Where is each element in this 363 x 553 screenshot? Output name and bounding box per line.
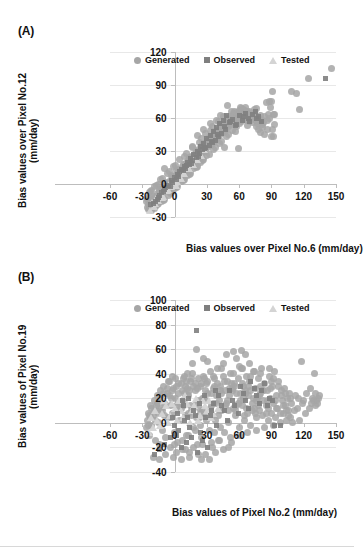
panel-b-y-axis-title-line2: (mm/day) bbox=[29, 294, 40, 479]
bottom-divider bbox=[0, 546, 354, 547]
x-tick-label: 0 bbox=[172, 430, 178, 441]
y-tick bbox=[171, 300, 175, 301]
legend-item-observed: Observed bbox=[204, 55, 256, 65]
y-tick-label: 60 bbox=[117, 344, 167, 355]
y-axis-line bbox=[175, 300, 176, 472]
x-tick-label: 30 bbox=[201, 191, 212, 202]
x-tick bbox=[271, 184, 272, 188]
x-tick bbox=[207, 423, 208, 427]
x-tick bbox=[175, 184, 176, 188]
triangle-marker-icon bbox=[269, 57, 277, 64]
legend-label-tested: Tested bbox=[281, 303, 309, 313]
square-marker-icon bbox=[204, 305, 210, 311]
x-tick bbox=[336, 423, 337, 427]
legend-item-observed: Observed bbox=[204, 303, 256, 313]
y-tick bbox=[171, 151, 175, 152]
panel-a-x-axis-title: Bias values over Pixel No.6 (mm/day) bbox=[186, 243, 363, 254]
x-tick bbox=[110, 184, 111, 188]
y-tick-label: 0 bbox=[117, 179, 167, 190]
y-tick-label: 80 bbox=[117, 319, 167, 330]
x-tick-label: 60 bbox=[234, 430, 245, 441]
y-tick bbox=[171, 374, 175, 375]
x-tick-label: -60 bbox=[103, 191, 117, 202]
x-tick-label: 60 bbox=[234, 191, 245, 202]
x-tick bbox=[271, 423, 272, 427]
x-tick-label: -30 bbox=[135, 191, 149, 202]
triangle-marker-icon bbox=[269, 305, 277, 312]
x-tick bbox=[304, 423, 305, 427]
y-tick bbox=[171, 325, 175, 326]
y-tick-label: 40 bbox=[117, 368, 167, 379]
x-tick-label: -30 bbox=[135, 430, 149, 441]
panel-b-y-axis-title: Bias values of Pixel No.19 (mm/day) bbox=[18, 294, 44, 479]
y-tick-label: -30 bbox=[117, 212, 167, 223]
legend-label-observed: Observed bbox=[214, 303, 256, 313]
x-axis-line-extension bbox=[55, 423, 110, 424]
y-tick bbox=[171, 85, 175, 86]
panel-b: (B) Bias values of Pixel No.19 (mm/day) … bbox=[0, 262, 354, 537]
y-tick bbox=[171, 472, 175, 473]
circle-marker-icon bbox=[134, 305, 141, 312]
y-tick bbox=[171, 52, 175, 53]
y-tick bbox=[171, 217, 175, 218]
panel-a-y-axis-title: Bias values over Pixel No.12 (mm/day) bbox=[18, 48, 44, 233]
y-tick-label: 0 bbox=[117, 417, 167, 428]
circle-marker-icon bbox=[134, 57, 141, 64]
square-marker-icon bbox=[204, 57, 210, 63]
x-tick bbox=[239, 184, 240, 188]
x-axis-line-extension bbox=[55, 184, 110, 185]
panel-b-tag: (B) bbox=[18, 270, 34, 284]
y-tick bbox=[171, 398, 175, 399]
y-tick bbox=[171, 447, 175, 448]
x-tick-label: -60 bbox=[103, 430, 117, 441]
x-tick-label: 30 bbox=[201, 430, 212, 441]
legend-label-observed: Observed bbox=[214, 55, 256, 65]
y-tick bbox=[171, 349, 175, 350]
panel-a-tag: (A) bbox=[18, 24, 34, 38]
x-tick-label: 150 bbox=[328, 191, 345, 202]
x-tick bbox=[239, 423, 240, 427]
x-tick-label: 120 bbox=[295, 430, 312, 441]
y-tick-label: -40 bbox=[117, 467, 167, 478]
legend-item-tested: Tested bbox=[269, 55, 309, 65]
panel-b-x-axis-title: Bias values of Pixel No.2 (mm/day) bbox=[172, 507, 337, 518]
panel-a: (A) Bias values over Pixel No.12 (mm/day… bbox=[0, 0, 354, 272]
x-tick bbox=[175, 423, 176, 427]
y-tick-label: 100 bbox=[117, 295, 167, 306]
x-tick-label: 150 bbox=[328, 430, 345, 441]
y-tick-label: -20 bbox=[117, 442, 167, 453]
x-tick-label: 0 bbox=[172, 191, 178, 202]
y-tick-label: 20 bbox=[117, 393, 167, 404]
legend-label-tested: Tested bbox=[281, 55, 309, 65]
y-tick-label: 60 bbox=[117, 113, 167, 124]
y-tick bbox=[171, 118, 175, 119]
y-tick-label: 120 bbox=[117, 47, 167, 58]
y-tick-label: 30 bbox=[117, 146, 167, 157]
x-tick bbox=[304, 184, 305, 188]
x-tick-label: 90 bbox=[266, 430, 277, 441]
x-tick-label: 90 bbox=[266, 191, 277, 202]
x-tick bbox=[207, 184, 208, 188]
x-tick bbox=[110, 423, 111, 427]
panel-a-y-axis-title-line2: (mm/day) bbox=[29, 48, 40, 233]
legend-item-tested: Tested bbox=[269, 303, 309, 313]
y-tick-label: 90 bbox=[117, 80, 167, 91]
x-tick-label: 120 bbox=[295, 191, 312, 202]
x-tick bbox=[336, 184, 337, 188]
